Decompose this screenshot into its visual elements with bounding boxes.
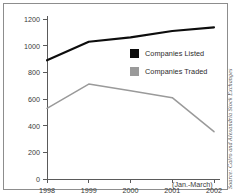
legend-swatch-companies-traded <box>130 67 139 76</box>
source-credit: Source: Cairo and Alexandria Stock Excha… <box>228 0 244 193</box>
chart-legend: Companies Listed Companies Traded <box>130 46 230 82</box>
y-axis-tick-label: 1000 <box>14 41 40 50</box>
legend-label-companies-traded: Companies Traded <box>145 67 207 76</box>
chart-figure: 020040060080010001200 199819992000200120… <box>0 0 244 193</box>
y-axis-tick-label: 0 <box>14 175 40 184</box>
y-axis-tick-label: 400 <box>14 121 40 130</box>
legend-item-companies-traded: Companies Traded <box>130 64 230 79</box>
x-axis-tick-label: 1999 <box>69 186 109 193</box>
y-axis-tick-label: 600 <box>14 95 40 104</box>
y-axis-tick-label: 1200 <box>14 15 40 24</box>
y-axis-tick-label: 200 <box>14 148 40 157</box>
legend-item-companies-listed: Companies Listed <box>130 46 230 61</box>
legend-swatch-companies-listed <box>130 49 139 58</box>
series-line <box>47 84 214 132</box>
x-axis-tick-label: 2000 <box>111 186 151 193</box>
x-axis-tick-label: 1998 <box>27 186 67 193</box>
source-credit-text: Source: Cairo and Alexandria Stock Excha… <box>228 69 233 189</box>
axis-group <box>43 16 220 183</box>
x-axis-sublabel: (Jan.-March) <box>172 180 213 189</box>
legend-label-companies-listed: Companies Listed <box>145 49 204 58</box>
y-axis-tick-label: 800 <box>14 68 40 77</box>
chart-frame: 020040060080010001200 199819992000200120… <box>3 3 228 190</box>
